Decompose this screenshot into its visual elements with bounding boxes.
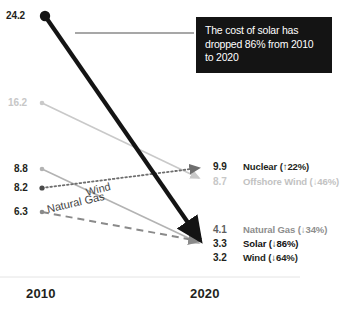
right-value-natural-gas: 4.1 [213, 224, 227, 235]
series-marker-wind-2010 [40, 167, 45, 172]
series-marker-solar-2010 [40, 11, 50, 21]
left-value-natural-gas: 6.3 [14, 206, 28, 217]
right-label-nuclear: Nuclear (↑22%) [243, 161, 309, 172]
right-label-offshore-wind: Offshore Wind (↓46%) [243, 176, 339, 187]
callout-annotation: The cost of solar has dropped 86% from 2… [196, 17, 332, 73]
right-value-offshore-wind: 8.7 [213, 176, 227, 187]
series-marker-offshore-wind-2010 [40, 101, 45, 106]
left-value-solar: 24.2 [6, 10, 25, 21]
series-line-natural-gas [42, 212, 199, 241]
axis-tick-2020: 2020 [190, 286, 220, 301]
left-value-nuclear: 8.2 [14, 182, 28, 193]
series-marker-nuclear-2010 [39, 185, 44, 190]
series-marker-natural-gas-2010 [40, 210, 45, 215]
right-label-natural-gas: Natural Gas (↓34%) [243, 224, 327, 235]
right-label-solar: Solar (↓86%) [243, 238, 298, 249]
right-value-wind: 3.2 [213, 252, 227, 263]
right-value-nuclear: 9.9 [213, 161, 227, 172]
right-label-wind: Wind (↓64%) [243, 252, 298, 263]
slope-chart: 24.2 16.2 8.8 8.2 6.3 Wind Natural Gas 9… [0, 0, 354, 316]
series-line-nuclear [42, 168, 199, 188]
right-value-solar: 3.3 [213, 238, 227, 249]
left-value-offshore-wind: 16.2 [8, 97, 27, 108]
left-value-wind: 8.8 [14, 163, 28, 174]
axis-tick-2010: 2010 [26, 286, 56, 301]
series-line-offshore-wind [42, 103, 199, 178]
callout-text: The cost of solar has dropped 86% from 2… [205, 24, 323, 65]
